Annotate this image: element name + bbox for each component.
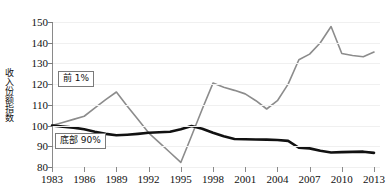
x-tick: [310, 167, 311, 172]
y-tick-label: 110: [32, 99, 48, 110]
y-tick-label: 100: [32, 120, 49, 131]
y-tick-label: 140: [32, 37, 49, 48]
x-tick-label: 1983: [41, 173, 63, 185]
y-tick: [48, 84, 53, 85]
x-tick: [84, 167, 85, 172]
y-tick-label: 150: [32, 17, 49, 28]
y-axis-title: 收入份额指数: [2, 36, 16, 154]
x-tick: [277, 167, 278, 172]
y-axis-tick-labels: 8090100110120130140150: [18, 0, 48, 193]
x-tick: [213, 167, 214, 172]
x-tick: [149, 167, 150, 172]
y-tick: [48, 22, 53, 23]
x-tick: [245, 167, 246, 172]
x-tick: [116, 167, 117, 172]
x-tick-label: 2013: [363, 173, 385, 185]
y-tick-label: 130: [32, 58, 49, 69]
x-tick-label: 1992: [138, 173, 160, 185]
y-tick-label: 90: [37, 141, 48, 152]
gridline: [53, 63, 380, 64]
x-tick: [181, 167, 182, 172]
x-tick-label: 1989: [105, 173, 127, 185]
legend-label-top-1-percent: 前 1%: [58, 71, 94, 87]
gridline: [53, 126, 380, 127]
x-axis-tick-labels: 1983198619891992199519982001200420072010…: [0, 173, 390, 193]
x-tick-label: 2001: [234, 173, 256, 185]
x-tick-label: 2007: [299, 173, 321, 185]
gridline: [53, 22, 380, 23]
x-tick-label: 1986: [73, 173, 95, 185]
gridline: [53, 84, 380, 85]
x-tick-label: 1998: [202, 173, 224, 185]
y-tick-label: 80: [37, 162, 48, 173]
x-tick-label: 2004: [266, 173, 288, 185]
legend-label-bottom-90-percent: 底部 90%: [55, 133, 106, 149]
y-tick: [48, 63, 53, 64]
x-tick: [374, 167, 375, 172]
income-share-index-chart: 收入份额指数 8090100110120130140150 1983198619…: [0, 0, 390, 193]
gridline: [53, 105, 380, 106]
y-tick: [48, 43, 53, 44]
y-tick: [48, 126, 53, 127]
x-tick: [342, 167, 343, 172]
y-tick: [48, 146, 53, 147]
x-tick-label: 1995: [170, 173, 192, 185]
x-tick: [52, 167, 53, 172]
gridline: [53, 167, 380, 168]
y-tick: [48, 105, 53, 106]
gridline: [53, 43, 380, 44]
y-tick-label: 120: [32, 79, 49, 90]
x-tick-label: 2010: [331, 173, 353, 185]
